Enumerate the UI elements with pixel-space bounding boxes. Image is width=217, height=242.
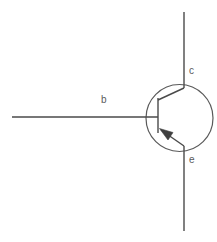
base-terminal-label: b <box>101 95 107 105</box>
emitter-terminal-label: e <box>189 155 195 165</box>
emitter-arrowhead-icon <box>160 129 174 141</box>
transistor-schematic: c b e <box>0 0 217 242</box>
transistor-envelope-circle <box>146 85 213 152</box>
schematic-canvas <box>0 0 217 242</box>
collector-terminal-label: c <box>189 66 194 76</box>
